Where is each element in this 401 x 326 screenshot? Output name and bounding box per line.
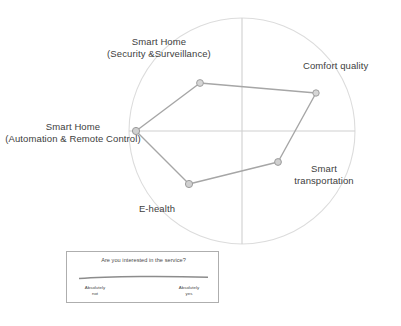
axis-label-line: (Automation & Remote Control)	[2, 133, 144, 145]
slider-track-icon[interactable]	[79, 275, 208, 280]
survey-scale-high-label: Absolutely yes	[167, 285, 211, 296]
axis-label-line: Comfort quality	[303, 60, 399, 72]
survey-question-text: Are you interested in the service?	[67, 257, 220, 263]
axis-label-smart-home-automation: Smart Home (Automation & Remote Control)	[2, 121, 144, 145]
survey-panel: Are you interested in the service? Absol…	[66, 251, 219, 303]
axis-label-line: Smart	[275, 163, 373, 175]
radar-point-security	[197, 80, 204, 87]
axis-label-comfort-quality: Comfort quality	[303, 60, 399, 72]
axis-label-line: Smart Home	[2, 121, 144, 133]
survey-slider[interactable]	[79, 275, 208, 279]
radar-point-ehealth	[185, 180, 192, 187]
axis-label-e-health: E-health	[112, 203, 202, 215]
axis-label-line: transportation	[275, 175, 373, 187]
axis-label-line: Smart Home	[83, 36, 235, 48]
radar-point-comfort	[313, 90, 319, 96]
axis-label-smart-transportation: Smart transportation	[275, 163, 373, 187]
axis-label-line: (Security &Surveillance)	[83, 48, 235, 60]
figure-canvas: Smart Home (Security &Surveillance) Comf…	[0, 0, 401, 326]
scale-label-line: not	[73, 291, 117, 297]
survey-scale-low-label: Absolutely not	[73, 285, 117, 296]
axis-label-line: E-health	[112, 203, 202, 215]
axis-label-smart-home-security: Smart Home (Security &Surveillance)	[83, 36, 235, 60]
scale-label-line: yes	[167, 291, 211, 297]
